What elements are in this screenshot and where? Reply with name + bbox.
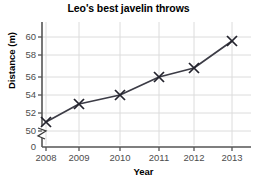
y-tick-label-58: 58 xyxy=(25,49,36,60)
y-tick-labels: 60 58 56 54 52 50 0 xyxy=(25,31,36,152)
y-tick-label-52: 52 xyxy=(25,107,36,118)
x-tick-label-2010: 2010 xyxy=(109,152,130,163)
x-tick-label-2009: 2009 xyxy=(68,152,89,163)
data-line-series-0 xyxy=(46,41,232,122)
x-tick-label-2012: 2012 xyxy=(183,152,204,163)
y-tick-label-60: 60 xyxy=(25,31,36,42)
y-tick-label-0: 0 xyxy=(31,141,36,152)
x-tick-label-2013: 2013 xyxy=(221,152,242,163)
x-tick-labels: 2008 2009 2010 2011 2012 2013 xyxy=(35,152,242,163)
plot-area: 60 58 56 54 52 50 0 2008 2009 2010 2011 … xyxy=(0,0,257,186)
x-tick-label-2008: 2008 xyxy=(35,152,56,163)
y-tick-label-50: 50 xyxy=(25,125,36,136)
y-tick-label-54: 54 xyxy=(25,89,36,100)
y-tick-label-56: 56 xyxy=(25,71,36,82)
x-tick-label-2011: 2011 xyxy=(149,152,169,163)
gridlines-horizontal xyxy=(42,37,251,131)
gridlines-vertical xyxy=(46,22,232,145)
axis-break-zigzag-icon xyxy=(38,128,46,139)
javelin-throws-line-chart: Leo's best javelin throws Distance (m) Y… xyxy=(0,0,257,186)
